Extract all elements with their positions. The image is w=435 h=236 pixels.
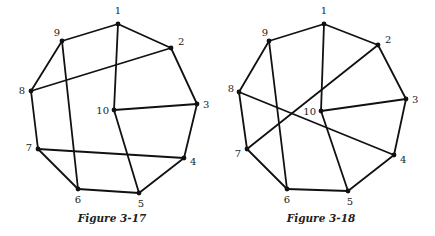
vertex-9 xyxy=(60,39,65,44)
vertex-3 xyxy=(195,102,200,107)
vertex-4 xyxy=(182,156,187,161)
figure-3-18-graph: 12345678910 Figure 3-18 xyxy=(228,5,419,224)
vertex-label-3: 3 xyxy=(203,99,209,110)
edge-9-6 xyxy=(269,41,287,189)
vertex-7 xyxy=(245,147,250,152)
vertex-label-2: 2 xyxy=(178,36,184,47)
edge-7-8 xyxy=(31,91,38,149)
edge-9-1 xyxy=(269,24,324,41)
vertex-label-5: 5 xyxy=(347,196,353,207)
vertex-2 xyxy=(376,43,381,48)
vertex-1 xyxy=(322,22,327,27)
vertex-8 xyxy=(237,90,242,95)
edge-9-6 xyxy=(62,41,78,189)
edge-8-4 xyxy=(239,92,394,155)
vertex-1 xyxy=(116,22,121,27)
edge-5-6 xyxy=(287,189,348,191)
figure-3-18-edges xyxy=(239,24,406,191)
edge-2-3 xyxy=(378,45,406,99)
edge-7-8 xyxy=(239,92,247,149)
vertex-label-8: 8 xyxy=(19,85,25,96)
edge-10-5 xyxy=(114,110,139,193)
vertex-9 xyxy=(267,39,272,44)
vertex-10 xyxy=(112,108,117,113)
vertex-5 xyxy=(137,191,142,196)
vertex-10 xyxy=(319,109,324,114)
edge-2-7 xyxy=(247,45,378,149)
edge-1-10 xyxy=(321,24,324,111)
vertex-label-3: 3 xyxy=(412,94,418,105)
figure-3-17-vertices xyxy=(29,22,200,196)
edge-9-1 xyxy=(62,24,118,41)
edge-8-9 xyxy=(239,41,269,92)
vertex-3 xyxy=(404,97,409,102)
edge-10-5 xyxy=(321,111,348,191)
figure-3-17-caption: Figure 3-17 xyxy=(77,212,147,224)
edge-7-4 xyxy=(38,149,184,158)
figure-3-17-graph: 12345678910 Figure 3-17 xyxy=(19,5,210,224)
vertex-4 xyxy=(392,153,397,158)
vertex-6 xyxy=(76,187,81,192)
edge-8-2 xyxy=(31,48,171,91)
vertex-label-2: 2 xyxy=(385,34,391,45)
vertex-2 xyxy=(169,46,174,51)
edge-1-2 xyxy=(118,24,171,48)
vertex-label-7: 7 xyxy=(26,142,32,153)
vertex-label-4: 4 xyxy=(190,156,196,167)
vertex-label-4: 4 xyxy=(400,154,406,165)
edge-10-3 xyxy=(321,99,406,111)
edge-1-10 xyxy=(114,24,118,110)
edge-6-7 xyxy=(38,149,78,189)
vertex-label-10: 10 xyxy=(303,106,316,117)
vertex-label-9: 9 xyxy=(262,27,268,38)
vertex-label-5: 5 xyxy=(138,198,144,209)
edge-4-5 xyxy=(139,158,184,193)
figure-3-18-caption: Figure 3-18 xyxy=(286,212,356,224)
figure-canvas: 12345678910 Figure 3-17 12345678910 Figu… xyxy=(0,0,435,236)
edge-10-3 xyxy=(114,104,197,110)
vertex-label-7: 7 xyxy=(235,148,241,159)
vertex-label-1: 1 xyxy=(115,5,121,16)
edge-6-7 xyxy=(247,149,287,189)
vertex-label-10: 10 xyxy=(96,105,109,116)
edge-3-4 xyxy=(184,104,197,158)
vertex-label-6: 6 xyxy=(75,194,81,205)
vertex-label-8: 8 xyxy=(228,83,234,94)
vertex-label-9: 9 xyxy=(54,27,60,38)
vertex-label-1: 1 xyxy=(321,5,327,16)
vertex-6 xyxy=(285,187,290,192)
vertex-label-6: 6 xyxy=(284,194,290,205)
edge-4-5 xyxy=(348,155,394,191)
edge-1-2 xyxy=(324,24,378,45)
vertex-7 xyxy=(36,147,41,152)
vertex-5 xyxy=(346,189,351,194)
edge-5-6 xyxy=(78,189,139,193)
vertex-8 xyxy=(29,89,34,94)
edge-3-4 xyxy=(394,99,406,155)
edge-2-3 xyxy=(171,48,197,104)
